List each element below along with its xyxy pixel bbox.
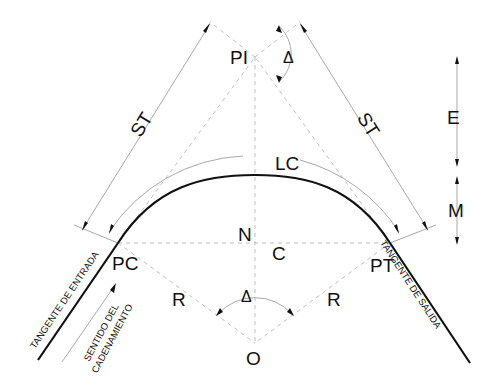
label-c: C (272, 243, 286, 264)
tangent-line-left (118, 57, 255, 243)
label-o: O (246, 348, 261, 369)
label-delta-top: Δ (283, 49, 294, 66)
label-tangente-salida: TANGENTE DE SALIDA (378, 238, 444, 331)
highway-curve-diagram: PI PC PT O N C LC E M R R Δ Δ ST ST TANG… (0, 0, 499, 388)
label-pi: PI (230, 47, 248, 68)
label-tangente-entrada: TANGENTE DE ENTRADA (27, 249, 101, 351)
radius-left (118, 243, 255, 343)
label-lc: LC (275, 153, 299, 174)
label-e: E (447, 107, 460, 128)
tangent-line-right (255, 57, 390, 243)
label-r-left: R (172, 289, 186, 310)
label-st-right: ST (353, 109, 384, 141)
circular-curve (118, 175, 390, 243)
label-pc: PC (112, 253, 138, 274)
label-m: M (448, 200, 464, 221)
label-delta-center: Δ (241, 288, 252, 305)
label-r-right: R (327, 289, 341, 310)
label-st-left: ST (126, 108, 157, 140)
label-n: N (238, 224, 252, 245)
